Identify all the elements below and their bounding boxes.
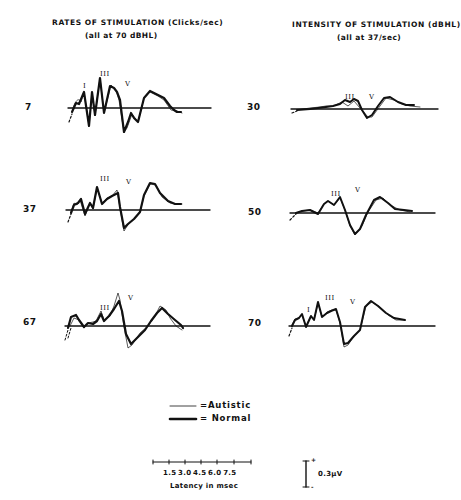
normal-trace — [68, 301, 183, 344]
voltage-label: 0.3µV — [318, 470, 342, 478]
normal-trace — [296, 197, 412, 234]
voltage-plus: + — [311, 456, 316, 463]
autistic-trace — [292, 302, 405, 347]
legend-autistic-label: =Autistic — [200, 400, 251, 410]
latency-tick-labels: 1.5 3.0 4.5 6.0 7.5 — [163, 469, 236, 477]
normal-trace — [72, 78, 181, 132]
voltage-minus: - — [311, 483, 314, 490]
latency-axis-label: Latency in msec — [170, 482, 238, 490]
autistic-trace — [70, 293, 182, 348]
normal-trace — [71, 183, 181, 228]
normal-trace — [292, 301, 405, 344]
normal-trace — [297, 97, 414, 118]
legend-normal-label: = Normal — [200, 413, 251, 423]
